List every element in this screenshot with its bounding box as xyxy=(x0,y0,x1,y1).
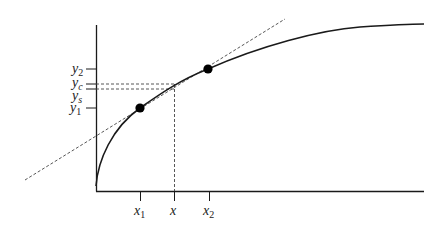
label-x1: x1 xyxy=(133,203,145,220)
concave-curve xyxy=(96,24,424,186)
label-x2: x2 xyxy=(202,203,214,220)
point-p1 xyxy=(135,103,144,112)
secant-line xyxy=(25,19,285,180)
secant-curve-diagram: y2 yc ys y1 x1 x x2 xyxy=(0,0,445,228)
point-p2 xyxy=(203,64,212,73)
label-x: x xyxy=(169,203,177,218)
